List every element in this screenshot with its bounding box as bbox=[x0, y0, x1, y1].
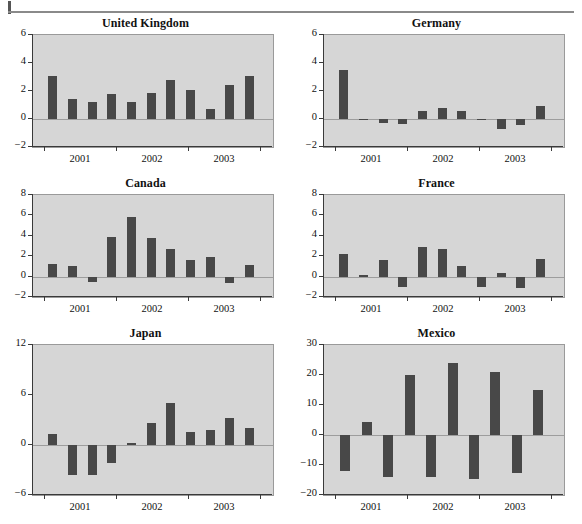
y-axis-line bbox=[32, 194, 33, 296]
x-axis-label: 2003 bbox=[204, 303, 244, 314]
bar bbox=[398, 277, 407, 287]
y-axis-tick bbox=[28, 118, 33, 119]
y-axis-line bbox=[32, 344, 33, 494]
bar bbox=[398, 119, 407, 124]
x-axis-label: 2003 bbox=[495, 153, 535, 164]
plot-area bbox=[32, 344, 274, 496]
bar bbox=[512, 435, 522, 473]
bar bbox=[340, 435, 350, 471]
y-axis-label: 4 bbox=[295, 55, 317, 66]
y-axis-label: 2 bbox=[295, 83, 317, 94]
chart-panel-united-kingdom: United Kingdom −20246200120022003 bbox=[0, 14, 291, 174]
y-axis-label: 0 bbox=[295, 427, 317, 438]
x-axis-tick bbox=[44, 494, 45, 499]
chart-grid: United Kingdom −20246200120022003 German… bbox=[0, 14, 582, 524]
bar bbox=[426, 435, 436, 477]
bar bbox=[339, 254, 348, 276]
y-axis-tick bbox=[319, 62, 324, 63]
y-axis-tick bbox=[28, 90, 33, 91]
chart-france: −202468200120022003 bbox=[301, 174, 572, 324]
y-axis-tick bbox=[319, 118, 324, 119]
bar bbox=[405, 375, 415, 435]
x-axis-tick bbox=[551, 296, 552, 301]
x-axis-label: 2003 bbox=[495, 303, 535, 314]
x-axis-tick bbox=[260, 494, 261, 499]
bar bbox=[383, 435, 393, 477]
y-axis-label: 6 bbox=[295, 27, 317, 38]
figure-top-divider bbox=[0, 0, 582, 14]
y-axis-tick bbox=[28, 34, 33, 35]
chart-mexico: −20−100102030200120022003 bbox=[301, 324, 572, 524]
x-axis-line bbox=[323, 146, 563, 147]
x-axis-tick bbox=[407, 296, 408, 301]
y-axis-label: 0 bbox=[4, 269, 26, 280]
x-axis-tick bbox=[551, 494, 552, 499]
y-axis-label: 6 bbox=[4, 387, 26, 398]
y-axis-tick bbox=[319, 344, 324, 345]
y-axis-label: 4 bbox=[4, 228, 26, 239]
y-axis-tick bbox=[28, 62, 33, 63]
bar bbox=[127, 102, 136, 120]
bar bbox=[497, 273, 506, 277]
bar bbox=[186, 432, 195, 445]
bar bbox=[477, 119, 486, 120]
y-axis-tick bbox=[319, 90, 324, 91]
y-axis-label: 30 bbox=[295, 337, 317, 348]
plot-area bbox=[323, 344, 565, 496]
bar bbox=[497, 119, 506, 129]
y-axis-label: 4 bbox=[4, 55, 26, 66]
y-axis-tick bbox=[319, 235, 324, 236]
y-axis-label: −2 bbox=[295, 289, 317, 300]
bar bbox=[166, 403, 175, 446]
x-axis-tick bbox=[44, 146, 45, 151]
x-axis-label: 2001 bbox=[60, 501, 100, 512]
bar bbox=[107, 445, 116, 463]
x-axis-tick bbox=[44, 296, 45, 301]
bar bbox=[48, 264, 57, 276]
bar bbox=[533, 390, 543, 435]
x-axis-tick bbox=[407, 146, 408, 151]
plot-area bbox=[323, 34, 565, 148]
bar bbox=[245, 265, 254, 277]
bar bbox=[88, 445, 97, 475]
chart-japan: −60612200120022003 bbox=[10, 324, 281, 524]
x-axis-label: 2003 bbox=[495, 501, 535, 512]
bar bbox=[48, 76, 57, 119]
x-axis-label: 2003 bbox=[204, 153, 244, 164]
x-axis-tick bbox=[479, 296, 480, 301]
y-axis-label: 2 bbox=[295, 248, 317, 259]
chart-panel-canada: Canada −202468200120022003 bbox=[0, 174, 291, 324]
x-axis-label: 2001 bbox=[351, 153, 391, 164]
x-axis-tick bbox=[116, 296, 117, 301]
x-axis-label: 2002 bbox=[423, 303, 463, 314]
y-axis-tick bbox=[28, 194, 33, 195]
x-axis-line bbox=[32, 146, 272, 147]
x-axis-label: 2002 bbox=[132, 153, 172, 164]
y-axis-tick bbox=[319, 464, 324, 465]
bar bbox=[438, 249, 447, 277]
y-axis-tick bbox=[319, 194, 324, 195]
y-axis-tick bbox=[319, 255, 324, 256]
y-axis-label: 2 bbox=[4, 83, 26, 94]
y-axis-label: 12 bbox=[4, 337, 26, 348]
y-axis-label: 0 bbox=[295, 269, 317, 280]
y-axis-tick bbox=[28, 276, 33, 277]
y-axis-tick bbox=[28, 344, 33, 345]
y-axis-label: −20 bbox=[295, 487, 317, 498]
x-axis-tick bbox=[335, 494, 336, 499]
y-axis-tick bbox=[319, 34, 324, 35]
y-axis-tick bbox=[319, 434, 324, 435]
x-axis-tick bbox=[407, 494, 408, 499]
bar bbox=[379, 119, 388, 123]
bar bbox=[469, 435, 479, 479]
bar bbox=[48, 434, 57, 445]
bar bbox=[418, 247, 427, 277]
x-axis-tick bbox=[335, 146, 336, 151]
x-axis-line bbox=[32, 296, 272, 297]
bar bbox=[418, 111, 427, 119]
x-axis-line bbox=[32, 494, 272, 495]
bar bbox=[147, 238, 156, 276]
y-axis-label: 8 bbox=[295, 187, 317, 198]
y-axis-label: 6 bbox=[4, 207, 26, 218]
bar bbox=[68, 445, 77, 475]
